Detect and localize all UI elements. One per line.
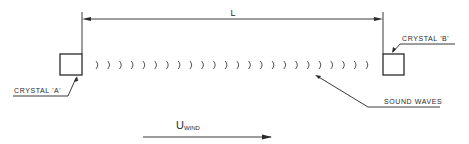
sound-wave-arc bbox=[272, 61, 274, 69]
crystal-a: CRYSTAL 'A' bbox=[13, 54, 82, 96]
arrowhead-left-icon bbox=[82, 17, 91, 21]
sound-wave-arc bbox=[319, 61, 321, 69]
sound-wave-arc bbox=[155, 61, 157, 69]
dimension-L: L bbox=[82, 8, 383, 54]
sound-wave-arc bbox=[119, 61, 121, 69]
sound-wave-arc bbox=[213, 61, 215, 69]
crystal-a-box bbox=[60, 54, 82, 75]
sound-wave-arc bbox=[284, 61, 286, 69]
sound-wave-arc bbox=[143, 61, 145, 69]
sound-wave-arc bbox=[202, 61, 204, 69]
dimension-label: L bbox=[230, 8, 235, 18]
arrowhead-right-icon bbox=[374, 17, 383, 21]
crystal-b-label: CRYSTAL 'B' bbox=[402, 35, 449, 42]
crystal-a-label: CRYSTAL 'A' bbox=[14, 87, 61, 94]
sound-wave-arc bbox=[96, 61, 98, 69]
crystal-b: CRYSTAL 'B' bbox=[383, 35, 455, 75]
sound-waves-label: SOUND WAVES bbox=[384, 98, 442, 105]
sound-wave-arc bbox=[178, 61, 180, 69]
sound-wave-arc bbox=[354, 61, 356, 69]
sound-waves-leader bbox=[317, 76, 368, 107]
sound-wave-arc bbox=[307, 61, 309, 69]
wind-label: UWIND bbox=[176, 119, 201, 131]
sound-wave-arc bbox=[166, 61, 168, 69]
sound-wave-arc bbox=[296, 61, 298, 69]
sound-wave-arc bbox=[108, 61, 110, 69]
sound-wave-arc bbox=[190, 61, 192, 69]
crystal-a-arrow-icon bbox=[74, 76, 78, 82]
diagram-canvas: L CRYSTAL 'A' CRYSTAL 'B' SOUND WAVES UW… bbox=[0, 0, 469, 144]
sound-wave-arc bbox=[343, 61, 345, 69]
sound-wave-arc bbox=[366, 61, 368, 69]
sound-wave-arc bbox=[237, 61, 239, 69]
sound-wave-arc bbox=[225, 61, 227, 69]
sound-waves-callout: SOUND WAVES bbox=[315, 75, 442, 107]
sound-wave-arc bbox=[331, 61, 333, 69]
wind-arrowhead-icon bbox=[262, 135, 272, 140]
wind-subscript: WIND bbox=[184, 125, 201, 131]
sound-wave-arc bbox=[249, 61, 251, 69]
sound-wave-arc bbox=[260, 61, 262, 69]
sound-waves bbox=[96, 61, 368, 69]
crystal-b-box bbox=[383, 54, 404, 75]
sound-wave-arc bbox=[131, 61, 133, 69]
wind-indicator: UWIND bbox=[143, 119, 272, 140]
wind-symbol: U bbox=[176, 119, 184, 131]
